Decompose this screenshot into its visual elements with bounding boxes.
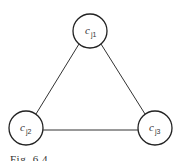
triangle-graph: c j1 c j2 c j3: [0, 0, 184, 161]
svg-text:c: c: [20, 121, 25, 133]
svg-text:j1: j1: [90, 31, 97, 39]
edge-cj1-cj2: [36, 44, 79, 114]
svg-text:c: c: [149, 121, 154, 133]
svg-text:j3: j3: [154, 128, 161, 136]
node-cj2: c j2: [9, 111, 43, 145]
edge-cj1-cj3: [101, 44, 145, 114]
figure-caption: Fig. 6.4: [10, 153, 48, 161]
svg-text:c: c: [85, 24, 90, 36]
svg-text:j2: j2: [25, 128, 32, 136]
node-cj1: c j1: [73, 14, 107, 48]
node-cj3: c j3: [138, 111, 172, 145]
